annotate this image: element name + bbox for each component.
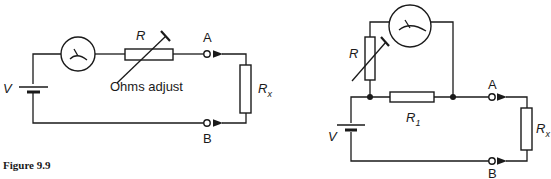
- source-label: V: [3, 81, 13, 96]
- junction-dot: [450, 94, 456, 100]
- battery-icon: [337, 125, 365, 130]
- unknown-label: Rx: [258, 81, 272, 99]
- ohmmeter-dial-icon: [61, 37, 95, 71]
- junction-dot: [367, 94, 373, 100]
- unknown-label: Rx: [536, 121, 550, 139]
- terminal-a-icon: [204, 51, 210, 57]
- terminal-b-label: B: [203, 131, 212, 146]
- shunt-resistor-icon: [390, 92, 434, 102]
- terminal-b-icon: [489, 158, 495, 164]
- resistor-label: R: [349, 46, 358, 61]
- terminal-b-icon: [204, 120, 210, 126]
- shunt-label: R1: [406, 110, 420, 128]
- terminal-b-label: B: [488, 166, 497, 179]
- unknown-resistor-icon: [222, 54, 251, 123]
- circuit-diagram: V R Ohms adjust A B Rx Figure 9.9: [0, 0, 551, 179]
- resistor-label: R: [136, 28, 145, 43]
- figure-caption: Figure 9.9: [3, 159, 51, 171]
- battery-icon: [19, 87, 48, 92]
- ohms-adjust-label: Ohms adjust: [110, 79, 183, 94]
- source-label: V: [328, 129, 338, 144]
- left-circuit: V R Ohms adjust A B Rx Figure 9.9: [3, 28, 272, 171]
- right-circuit: V R R1 A B Rx: [328, 5, 550, 179]
- terminal-a-label: A: [488, 77, 497, 92]
- terminal-a-label: A: [203, 30, 212, 45]
- terminal-a-icon: [489, 94, 495, 100]
- ohmmeter-dial-icon: [389, 5, 431, 47]
- unknown-resistor-icon: [506, 97, 532, 161]
